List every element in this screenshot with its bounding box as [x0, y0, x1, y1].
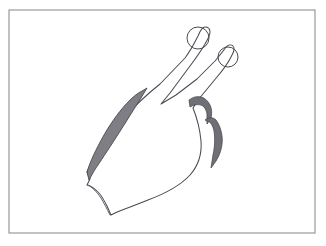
image-canvas	[0, 0, 326, 246]
framed-illustration	[0, 0, 326, 246]
hand-drawing-svg	[0, 0, 326, 246]
